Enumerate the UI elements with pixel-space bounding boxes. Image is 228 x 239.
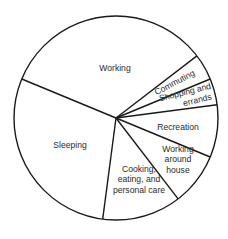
slice-label-line: around — [165, 154, 192, 164]
slice-label-line: house — [166, 165, 190, 175]
pie-chart: WorkingCommutingShopping anderrandsRecre… — [0, 0, 228, 239]
slice-label-line: Working — [162, 144, 194, 154]
pie-chart-svg: WorkingCommutingShopping anderrandsRecre… — [0, 0, 228, 239]
slice-label-sleeping: Sleeping — [53, 140, 87, 150]
slice-label-working-around-house: Workingaroundhouse — [162, 144, 194, 175]
slice-label-line: personal care — [113, 185, 165, 195]
slice-label-working: Working — [99, 63, 131, 73]
slice-label-line: eating, and — [118, 174, 161, 184]
slice-label-line: Recreation — [157, 122, 199, 132]
slice-label-line: Cooking, — [122, 164, 156, 174]
slice-label-line: Sleeping — [53, 140, 87, 150]
slice-label-recreation: Recreation — [157, 122, 199, 132]
slice-label-line: Working — [99, 63, 131, 73]
